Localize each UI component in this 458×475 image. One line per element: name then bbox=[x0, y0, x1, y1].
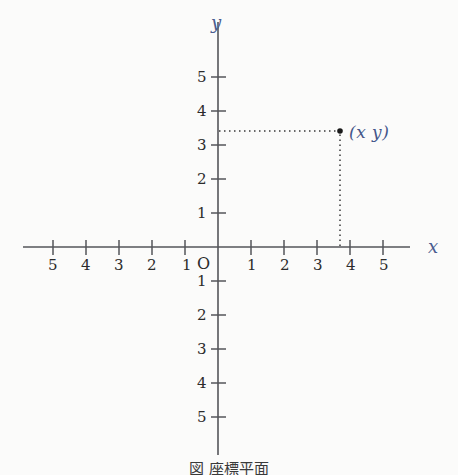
coordinate-plane-svg bbox=[0, 0, 458, 475]
x-tick-label-pos-3: 3 bbox=[313, 258, 323, 273]
x-tick-label-neg-3: 3 bbox=[114, 258, 124, 273]
y-tick-label-neg-3: 3 bbox=[197, 342, 207, 357]
x-tick-label-pos-1: 1 bbox=[247, 258, 257, 273]
y-tick-label-neg-1: 1 bbox=[197, 274, 207, 289]
y-tick-label-pos-5: 5 bbox=[197, 70, 207, 85]
y-tick-label-neg-5: 5 bbox=[197, 410, 207, 425]
y-axis-label: y bbox=[211, 14, 221, 32]
y-tick-label-pos-1: 1 bbox=[197, 206, 207, 221]
x-tick-label-pos-2: 2 bbox=[280, 258, 290, 273]
x-tick-label-pos-4: 4 bbox=[346, 258, 356, 273]
origin-label: O bbox=[197, 256, 210, 272]
point-coordinate-label: (x y) bbox=[349, 124, 389, 141]
y-tick-label-pos-2: 2 bbox=[197, 172, 207, 187]
y-tick-label-pos-3: 3 bbox=[197, 138, 207, 153]
y-tick-label-neg-4: 4 bbox=[197, 376, 207, 391]
x-tick-label-pos-5: 5 bbox=[379, 258, 389, 273]
y-tick-label-pos-4: 4 bbox=[197, 104, 207, 119]
x-axis-label: x bbox=[428, 238, 438, 256]
figure-caption: 図 座標平面 bbox=[0, 462, 458, 475]
coordinate-plane-figure: 5 4 3 2 1 O 1 2 3 4 5 1 2 3 4 5 1 2 3 4 … bbox=[0, 0, 458, 475]
y-tick-label-neg-2: 2 bbox=[197, 308, 207, 323]
plotted-point bbox=[337, 128, 343, 134]
x-tick-label-neg-1: 1 bbox=[182, 258, 192, 273]
x-tick-label-neg-5: 5 bbox=[48, 258, 58, 273]
x-tick-label-neg-2: 2 bbox=[147, 258, 157, 273]
x-tick-label-neg-4: 4 bbox=[81, 258, 91, 273]
